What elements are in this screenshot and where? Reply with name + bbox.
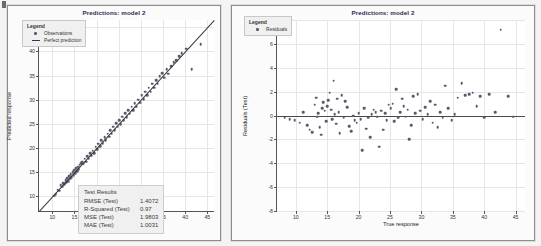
- y-axis-tick: [274, 68, 277, 69]
- data-point: [460, 82, 463, 85]
- metric-name-r-squared: R-Squared (Test): [84, 205, 140, 213]
- y-axis-tick-label: -6: [268, 184, 273, 190]
- x-axis-tick-label: 40: [481, 214, 487, 220]
- data-point: [336, 97, 339, 100]
- data-point: [374, 111, 377, 114]
- data-point: [288, 118, 291, 121]
- data-point: [404, 115, 407, 118]
- y-axis-tick: [274, 139, 277, 140]
- data-point: [479, 95, 482, 98]
- data-point: [326, 105, 329, 108]
- y-axis-tick-label: 20: [29, 145, 35, 151]
- right-chart-title: Predictions: model 2: [232, 9, 534, 16]
- data-point: [475, 105, 478, 108]
- perfect-prediction-line-icon: [31, 40, 40, 41]
- observation-dot-icon: [31, 32, 40, 35]
- legend-item-residuals: Residuals: [249, 27, 287, 32]
- x-axis-tick-label: 15: [72, 214, 78, 220]
- data-point: [384, 112, 387, 115]
- data-point: [507, 95, 510, 98]
- gridline-horizontal: [277, 187, 525, 188]
- y-axis-tick-label: 0: [270, 113, 273, 119]
- data-point: [376, 115, 379, 118]
- data-point: [453, 113, 456, 116]
- data-point: [359, 118, 362, 121]
- x-axis-tick-label: 10: [49, 214, 55, 220]
- data-point: [457, 96, 460, 99]
- x-axis-tick-label: 30: [419, 214, 425, 220]
- gridline-vertical: [52, 20, 53, 211]
- data-point: [352, 114, 355, 117]
- data-point: [167, 72, 170, 75]
- data-point: [328, 92, 331, 95]
- gridline-horizontal: [277, 68, 525, 69]
- data-point: [330, 108, 333, 111]
- legend-label-residuals: Residuals: [266, 27, 287, 32]
- gridline-vertical: [141, 20, 142, 211]
- legend-label-observations: Observations: [44, 31, 72, 36]
- data-point: [399, 111, 402, 114]
- data-point: [331, 118, 334, 121]
- y-axis-tick: [274, 211, 277, 212]
- data-point: [369, 136, 372, 139]
- legend-item-observations: Observations: [27, 31, 81, 36]
- data-point: [380, 109, 383, 112]
- data-point: [472, 92, 475, 95]
- data-point: [441, 117, 444, 120]
- data-point: [371, 113, 374, 116]
- data-point: [311, 131, 314, 134]
- left-legend-title: Legend: [27, 23, 81, 29]
- data-point: [316, 115, 319, 118]
- y-axis-tick-label: -2: [268, 136, 273, 142]
- x-axis-tick-label: 10: [293, 214, 299, 220]
- metric-value-r-squared: 0.97: [140, 205, 152, 213]
- data-point: [306, 124, 309, 127]
- data-point: [419, 109, 422, 112]
- gridline-horizontal: [277, 20, 525, 21]
- test-results-row: R-Squared (Test) 0.97: [84, 205, 158, 213]
- data-point: [323, 109, 326, 112]
- test-results-row: MAE (Test) 1.0031: [84, 221, 158, 229]
- data-point: [439, 111, 442, 114]
- data-point: [444, 84, 447, 87]
- data-point: [342, 117, 345, 120]
- y-axis-tick: [274, 92, 277, 93]
- test-results-box: Test Results RMSE (Test) 1.4072 R-Square…: [78, 185, 164, 234]
- data-point: [361, 149, 364, 152]
- y-axis-tick: [274, 163, 277, 164]
- left-chart-title: Predictions: model 2: [8, 9, 220, 16]
- data-point: [337, 111, 340, 114]
- y-axis-tick-label: 30: [29, 97, 35, 103]
- y-axis-tick-label: 35: [29, 73, 35, 79]
- data-point: [348, 125, 351, 128]
- gridline-vertical: [119, 20, 120, 211]
- data-point: [436, 126, 439, 129]
- gridline-horizontal: [277, 163, 525, 164]
- y-axis-tick: [36, 76, 39, 77]
- data-point: [382, 129, 385, 132]
- y-axis-tick-label: 15: [29, 169, 35, 175]
- data-point: [363, 107, 366, 110]
- data-point: [429, 100, 432, 103]
- x-axis-tick-label: 20: [356, 214, 362, 220]
- y-axis-tick-label: 6: [270, 41, 273, 47]
- data-point: [350, 130, 353, 133]
- data-point: [325, 120, 328, 123]
- gridline-horizontal: [39, 172, 214, 173]
- gridline-horizontal: [277, 44, 525, 45]
- data-point: [412, 95, 415, 98]
- x-axis-tick-label: 35: [450, 214, 456, 220]
- data-point: [387, 103, 390, 106]
- data-point: [431, 121, 434, 124]
- data-point: [302, 111, 305, 114]
- data-point: [389, 107, 392, 110]
- data-point: [416, 93, 419, 96]
- data-point: [408, 138, 411, 141]
- data-point: [378, 145, 381, 148]
- gridline-horizontal: [39, 148, 214, 149]
- data-point: [344, 100, 347, 103]
- data-point: [317, 112, 320, 115]
- metric-name-rmse: RMSE (Test): [84, 197, 140, 205]
- metric-name-mse: MSE (Test): [84, 213, 140, 221]
- gridline-horizontal: [39, 76, 214, 77]
